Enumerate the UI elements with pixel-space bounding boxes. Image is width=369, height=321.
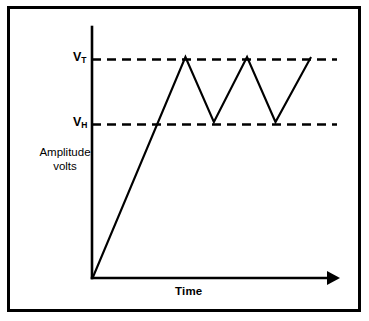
y-label-vt-subscript: T bbox=[81, 55, 86, 65]
figure-root: VT VH Amplitude volts Time bbox=[0, 0, 369, 321]
y-axis-title: Amplitude volts bbox=[28, 146, 102, 173]
y-label-vh-subscript: H bbox=[81, 120, 87, 130]
waveform-series bbox=[93, 57, 311, 277]
y-axis-title-line1: Amplitude bbox=[28, 146, 102, 160]
y-label-vh: VH bbox=[73, 115, 87, 130]
y-axis-title-line2: volts bbox=[28, 160, 102, 174]
x-axis-arrow-icon bbox=[327, 271, 340, 285]
y-label-vt: VT bbox=[73, 50, 87, 65]
x-axis-title: Time bbox=[175, 285, 202, 299]
